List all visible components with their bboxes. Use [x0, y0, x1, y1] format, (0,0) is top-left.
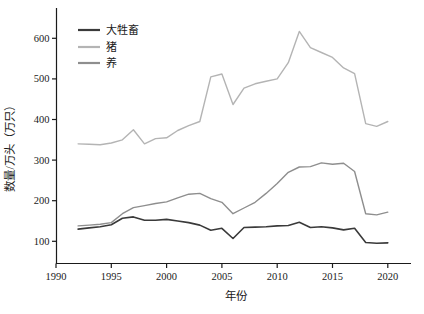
- legend-item-label: 养: [106, 56, 117, 69]
- x-tick-label: 2000: [156, 271, 177, 282]
- x-tick-label: 2010: [267, 271, 288, 282]
- y-axis-title: 数量/万头（万只）: [3, 100, 16, 191]
- y-tick-label: 300: [34, 155, 50, 166]
- series-line-大牲畜: [78, 217, 388, 243]
- legend-item-label: 大牲畜: [106, 23, 139, 36]
- series-line-养: [78, 163, 388, 226]
- x-tick-label: 2020: [377, 271, 398, 282]
- line-chart-canvas: 1002003004005006001990199520002005201020…: [0, 0, 424, 314]
- series-line-猪: [78, 31, 388, 144]
- x-tick-label: 2005: [211, 271, 232, 282]
- x-tick-label: 1990: [46, 271, 67, 282]
- chart-figure: 1002003004005006001990199520002005201020…: [0, 0, 424, 314]
- x-tick-label: 2015: [322, 271, 343, 282]
- legend-item-label: 猪: [106, 41, 117, 53]
- y-tick-label: 200: [34, 195, 50, 206]
- plot-layer: 1002003004005006001990199520002005201020…: [34, 8, 411, 282]
- x-axis-title: 年份: [225, 289, 248, 302]
- x-tick-label: 1995: [101, 271, 122, 282]
- y-tick-label: 600: [34, 33, 50, 44]
- y-tick-label: 400: [34, 114, 50, 125]
- y-tick-label: 100: [34, 236, 50, 247]
- y-tick-label: 500: [34, 73, 50, 84]
